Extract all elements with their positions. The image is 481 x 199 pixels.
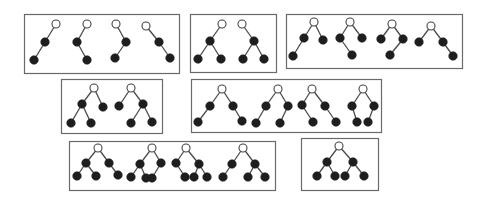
- tree-node-filled: [166, 54, 175, 63]
- binary-tree: [238, 20, 268, 63]
- root-node-hollow: [182, 144, 190, 152]
- tree-node-filled: [99, 103, 108, 112]
- tree-node-filled: [360, 172, 369, 181]
- tree-node-filled: [313, 172, 322, 181]
- tree-node-filled: [261, 173, 270, 182]
- tree-node-filled: [87, 119, 96, 128]
- tree-node-filled: [349, 158, 358, 167]
- tree-node-filled: [284, 102, 293, 111]
- binary-tree: [127, 144, 166, 182]
- root-node-hollow: [142, 22, 150, 30]
- tree-node-filled: [331, 172, 340, 181]
- root-node-hollow: [52, 20, 60, 28]
- tree-node-filled: [262, 102, 271, 111]
- tree-node-filled: [148, 118, 157, 127]
- root-node-hollow: [94, 144, 102, 152]
- tree-group: [70, 142, 276, 191]
- root-node-hollow: [148, 144, 156, 152]
- root-node-hollow: [127, 84, 135, 92]
- binary-tree: [336, 18, 367, 59]
- tree-node-filled: [219, 173, 228, 182]
- root-node-hollow: [274, 85, 282, 93]
- tree-node-filled: [73, 38, 82, 47]
- tree-node-filled: [244, 173, 253, 182]
- tree-node-filled: [239, 55, 248, 64]
- root-node-hollow: [310, 18, 318, 26]
- tree-node-filled: [319, 36, 328, 45]
- tree-node-filled: [136, 160, 145, 169]
- tree-node-filled: [172, 159, 181, 168]
- tree-node-filled: [251, 160, 260, 169]
- tree-node-filled: [386, 51, 395, 60]
- tree-node-filled: [122, 38, 131, 47]
- root-node-hollow: [346, 18, 354, 26]
- tree-node-filled: [155, 38, 164, 47]
- tree-node-filled: [341, 172, 350, 181]
- tree-node-filled: [415, 38, 424, 47]
- tree-node-filled: [82, 159, 91, 168]
- root-node-hollow: [83, 20, 91, 28]
- binary-tree: [115, 84, 157, 127]
- tree-group: [192, 80, 382, 133]
- tree-node-filled: [260, 55, 269, 64]
- binary-tree: [142, 22, 174, 62]
- root-node-hollow: [238, 20, 246, 28]
- tree-node-filled: [83, 56, 92, 65]
- binary-tree: [219, 144, 270, 181]
- tree-node-filled: [298, 101, 307, 110]
- tree-node-filled: [127, 173, 136, 182]
- tree-node-filled: [399, 35, 408, 44]
- tree-node-filled: [348, 51, 357, 60]
- tree-node-filled: [332, 118, 341, 127]
- tree-node-filled: [238, 117, 247, 126]
- tree-node-filled: [364, 118, 373, 127]
- tree-group: [302, 139, 379, 191]
- tree-node-filled: [300, 34, 309, 43]
- tree-node-filled: [252, 119, 261, 128]
- tree-node-filled: [194, 55, 203, 64]
- tree-node-filled: [115, 102, 124, 111]
- binary-tree: [30, 20, 60, 64]
- tree-node-filled: [323, 158, 332, 167]
- tree-node-filled: [449, 52, 458, 61]
- tree-node-filled: [321, 102, 330, 111]
- tree-node-filled: [353, 118, 362, 127]
- tree-node-filled: [194, 118, 203, 127]
- root-node-hollow: [218, 20, 226, 28]
- root-node-hollow: [239, 144, 247, 152]
- root-node-hollow: [308, 85, 316, 93]
- binary-tree: [172, 144, 212, 181]
- tree-node-filled: [111, 54, 120, 63]
- tree-node-filled: [276, 119, 285, 128]
- root-node-hollow: [388, 20, 396, 28]
- tree-node-filled: [105, 159, 114, 168]
- tree-diagram-canvas: Binary tree shapes grouped by structure: [0, 0, 481, 199]
- tree-node-filled: [30, 56, 39, 65]
- tree-node-filled: [370, 102, 379, 111]
- binary-tree: [252, 85, 293, 127]
- binary-tree: [67, 84, 108, 127]
- tree-node-filled: [228, 160, 237, 169]
- tree-node-filled: [78, 100, 87, 109]
- binary-tree: [111, 20, 131, 62]
- binary-tree: [377, 20, 408, 59]
- tree-node-filled: [229, 102, 238, 111]
- tree-node-filled: [358, 34, 367, 43]
- tree-node-filled: [190, 173, 199, 182]
- tree-node-filled: [148, 174, 157, 183]
- tree-node-filled: [439, 38, 448, 47]
- tree-node-filled: [377, 35, 386, 44]
- tree-node-filled: [195, 160, 204, 169]
- group-frame: [191, 15, 277, 73]
- root-node-hollow: [218, 85, 226, 93]
- tree-group: [62, 80, 163, 134]
- root-node-hollow: [112, 20, 120, 28]
- binary-tree: [194, 85, 247, 126]
- tree-node-filled: [203, 173, 212, 182]
- tree-group: [25, 15, 180, 74]
- tree-node-filled: [181, 173, 190, 182]
- binary-tree: [313, 142, 369, 180]
- binary-tree: [194, 20, 226, 63]
- tree-group: [191, 15, 277, 73]
- tree-node-filled: [206, 102, 215, 111]
